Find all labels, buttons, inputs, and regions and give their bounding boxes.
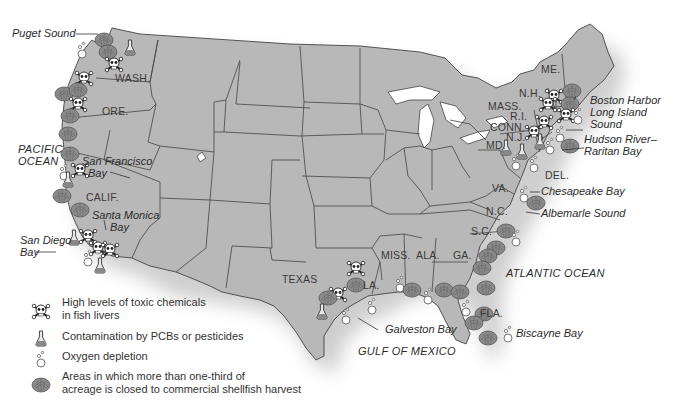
water-label-san-francisco: San Francisco Bay [82, 156, 152, 179]
state-label-del: DEL. [545, 170, 569, 181]
water-label-puget-sound: Puget Sound [12, 28, 76, 40]
us-coastal-pollution-map: PACIFIC OCEAN ATLANTIC OCEAN GULF OF MEX… [0, 0, 675, 402]
ocean-label-atlantic: ATLANTIC OCEAN [506, 268, 605, 280]
legend-label: High levels of toxic chemicals [62, 296, 206, 309]
legend-label: in fish livers [62, 309, 206, 322]
state-label-ga: GA. [453, 250, 472, 261]
map-legend: High levels of toxic chemicals in fish l… [30, 296, 350, 402]
state-label-texas: TEXAS [282, 274, 317, 285]
legend-label: Oxygen depletion [62, 350, 148, 363]
state-label-conn: CONN. [490, 122, 525, 133]
water-label-boston-harbor: Boston Harbor [590, 95, 661, 107]
water-label-chesapeake-bay: Chesapeake Bay [541, 186, 625, 198]
state-label-fla: FLA. [480, 308, 503, 319]
state-label-sc: S.C. [471, 226, 492, 237]
legend-item-toxic-chemicals: High levels of toxic chemicals in fish l… [30, 296, 350, 330]
ocean-label-gulf: GULF OF MEXICO [358, 346, 456, 358]
water-label-long-island-sound: Long Island Sound [590, 107, 647, 130]
skull-crossbones-icon [30, 302, 52, 320]
water-label-santa-monica: Santa Monica Bay [92, 210, 159, 233]
state-label-nj: N.J. [506, 132, 525, 143]
legend-label: Contamination by PCBs or pesticides [62, 330, 244, 343]
water-label-biscayne-bay: Biscayne Bay [516, 328, 583, 340]
state-label-ri: R.I. [510, 111, 527, 122]
state-label-md: MD. [486, 140, 506, 151]
state-label-miss: MISS. [381, 250, 411, 261]
legend-item-oxygen-depletion: Oxygen depletion [30, 350, 350, 370]
state-label-ore: ORE. [102, 106, 128, 117]
water-label-san-diego: San Diego Bay [20, 235, 71, 258]
shellfish-icon [30, 376, 52, 394]
state-label-nh: N.H. [519, 88, 541, 99]
state-label-nc: N.C. [486, 206, 508, 217]
water-label-hudson-raritan: Hudson River– Raritan Bay [584, 134, 657, 157]
state-label-ala: ALA. [416, 250, 440, 261]
bubbles-icon [30, 350, 52, 368]
state-label-va: VA. [492, 183, 509, 194]
state-label-wash: WASH. [115, 73, 150, 84]
legend-item-shellfish-closure: Areas in which more than one-third of ac… [30, 370, 350, 402]
state-label-calif: CALIF. [86, 192, 119, 203]
legend-item-pcb-contamination: Contamination by PCBs or pesticides [30, 330, 350, 350]
state-label-la: LA. [363, 280, 379, 291]
water-label-albemarle-sound: Albemarle Sound [541, 208, 625, 220]
state-label-me: ME. [541, 64, 560, 75]
legend-label: acreage is closed to commercial shellfis… [62, 383, 301, 396]
ocean-label-pacific: PACIFIC OCEAN [18, 144, 63, 167]
state-label-mass: MASS. [488, 101, 522, 112]
legend-label: Areas in which more than one-third of [62, 370, 301, 383]
flask-icon [30, 330, 52, 348]
water-label-galveston-bay: Galveston Bay [385, 324, 457, 336]
